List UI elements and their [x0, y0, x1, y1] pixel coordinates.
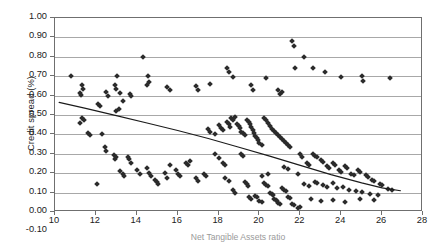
credit-spread-scatter-chart: Credit spread (%) -0.100.000.100.200.300… — [0, 0, 433, 243]
x-tick-label: 14 — [124, 215, 148, 225]
y-tick-label: 0.80 — [2, 50, 47, 60]
y-tick-label: 0.50 — [2, 108, 47, 118]
x-tick-label: 24 — [328, 215, 352, 225]
x-tick-label: 26 — [369, 215, 393, 225]
y-tick-label: 0.40 — [2, 127, 47, 137]
y-tick-label: 0.60 — [2, 89, 47, 99]
y-tick-label: 0.00 — [2, 205, 47, 215]
x-tick-label: 22 — [287, 215, 311, 225]
y-tick-label: 0.30 — [2, 147, 47, 157]
y-tick-label: 0.20 — [2, 166, 47, 176]
x-tick-label: 28 — [410, 215, 433, 225]
x-tick-label: 10 — [42, 215, 66, 225]
y-tick-label: 0.10 — [2, 186, 47, 196]
y-tick-label: 0.70 — [2, 69, 47, 79]
trendline — [55, 18, 423, 212]
x-tick-label: 16 — [165, 215, 189, 225]
x-tick-label: 20 — [246, 215, 270, 225]
y-tick-label: -0.10 — [2, 224, 47, 234]
x-tick-label: 12 — [83, 215, 107, 225]
x-tick-label: 18 — [206, 215, 230, 225]
y-tick-label: 1.00 — [2, 11, 47, 21]
x-axis-title: Net Tangible Assets ratio — [54, 232, 422, 243]
plot-area — [54, 17, 422, 211]
y-tick-label: 0.90 — [2, 30, 47, 40]
